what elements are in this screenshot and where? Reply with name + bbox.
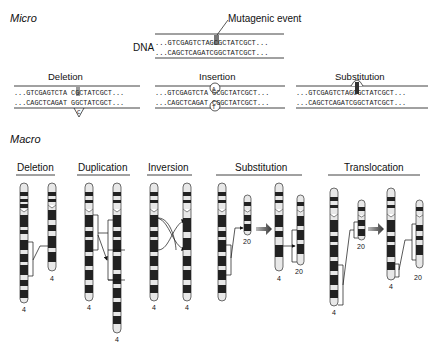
duplication-chromosomes: 4 4: [85, 183, 125, 343]
dna-label: DNA: [133, 42, 154, 53]
mutation-diagram: Micro DNA ...GTCGAGTCTAGCGCTATCGCT... ..…: [0, 0, 436, 344]
svg-text:4: 4: [115, 336, 119, 343]
transition-arrow-icon: [368, 223, 384, 235]
chromosome-20-target: 20: [243, 195, 251, 245]
inversion-chromosomes: 4 4: [150, 183, 191, 311]
event-pointer: [217, 20, 228, 35]
chromosome-4-normal: 4: [150, 183, 158, 311]
micro-insertion-title: Insertion: [199, 71, 235, 82]
mutagenic-event-label: Mutagenic event: [228, 13, 302, 24]
svg-text:4: 4: [185, 304, 189, 311]
svg-text:Translocation: Translocation: [344, 162, 404, 173]
micro-deletion-title: Deletion: [48, 71, 83, 82]
svg-text:20: 20: [357, 243, 365, 250]
chromosome-20-source: 20: [357, 200, 365, 250]
svg-text:...GTCGAGTCTA GCGCTATCGCT...: ...GTCGAGTCTA GCGCTATCGCT...: [155, 89, 269, 97]
micro-insertion: Insertion A T ...GTCGAGTCTA GCGCTATCGCT.…: [155, 71, 285, 111]
svg-text:Inversion: Inversion: [148, 162, 189, 173]
micro-substitution-title: Substitution: [335, 71, 385, 82]
svg-text:Duplication: Duplication: [78, 162, 127, 173]
chromosome-4-result: 4: [275, 183, 283, 282]
chromosome-20-result: 20: [295, 195, 304, 275]
svg-text:...CAGCTCAGAT GGCTATCGCT...: ...CAGCTCAGAT GGCTATCGCT...: [14, 99, 124, 107]
macro-title: Macro: [10, 133, 41, 145]
svg-text:20: 20: [295, 268, 303, 275]
macro-headings: Deletion Duplication Inversion Substitut…: [16, 162, 420, 175]
svg-text:4: 4: [22, 306, 26, 313]
svg-text:...CAGCTCAGAT CGGCTATCGCT...: ...CAGCTCAGAT CGGCTATCGCT...: [155, 99, 269, 107]
translocation-chromosomes: 4 20 4 20: [330, 188, 423, 316]
chromosome-4-source: 4: [330, 188, 338, 316]
substitution-chromosomes: 20 4 20: [218, 183, 304, 301]
chromosome-4-normal: 4: [85, 183, 93, 311]
svg-text:C: C: [77, 109, 81, 116]
micro-title: Micro: [10, 12, 37, 24]
chromosome-4-duplicated: 4: [113, 183, 121, 343]
svg-text:4: 4: [50, 275, 54, 282]
chromosome-20-result: 20: [414, 200, 423, 281]
chromosome-4-source: [218, 183, 226, 301]
svg-text:...GTCGAGTCTAGCGCTATCGCT...: ...GTCGAGTCTAGCGCTATCGCT...: [296, 89, 406, 97]
svg-text:4: 4: [87, 304, 91, 311]
svg-text:20: 20: [243, 238, 251, 245]
original-dna: DNA ...GTCGAGTCTAGCGCTATCGCT... ...CAGCT…: [133, 13, 302, 58]
svg-text:4: 4: [152, 304, 156, 311]
svg-text:Substitution: Substitution: [235, 162, 287, 173]
chromosome-4-normal: 4: [20, 183, 28, 313]
dna-top-strand: ...GTCGAGTCTAGCGCTATCGCT...: [155, 39, 268, 47]
svg-text:Deletion: Deletion: [17, 162, 54, 173]
micro-deletion: Deletion ...GTCGAGTCTA CGCTATCGCT... ...…: [14, 71, 140, 117]
micro-substitution: Substitution ...GTCGAGTCTAGCGCTATCGCT...…: [296, 71, 428, 108]
dna-bottom-strand: ...CAGCTCAGATCGGCTATCGCT...: [155, 49, 268, 57]
chromosome-4-inverted: 4: [183, 183, 191, 311]
svg-text:...GTCGAGTCTA CGCTATCGCT...: ...GTCGAGTCTA CGCTATCGCT...: [14, 89, 124, 97]
svg-text:4: 4: [277, 275, 281, 282]
deletion-chromosomes: 4 4: [20, 183, 56, 313]
chromosome-4-result: 4: [387, 188, 395, 290]
svg-text:20: 20: [414, 274, 422, 281]
chromosome-4-deleted: 4: [48, 183, 56, 282]
svg-text:4: 4: [332, 309, 336, 316]
svg-text:4: 4: [389, 283, 393, 290]
transition-arrow-icon: [256, 223, 272, 235]
svg-text:...CAGCTCAGATCGGCTATCGCT...: ...CAGCTCAGATCGGCTATCGCT...: [296, 99, 406, 107]
